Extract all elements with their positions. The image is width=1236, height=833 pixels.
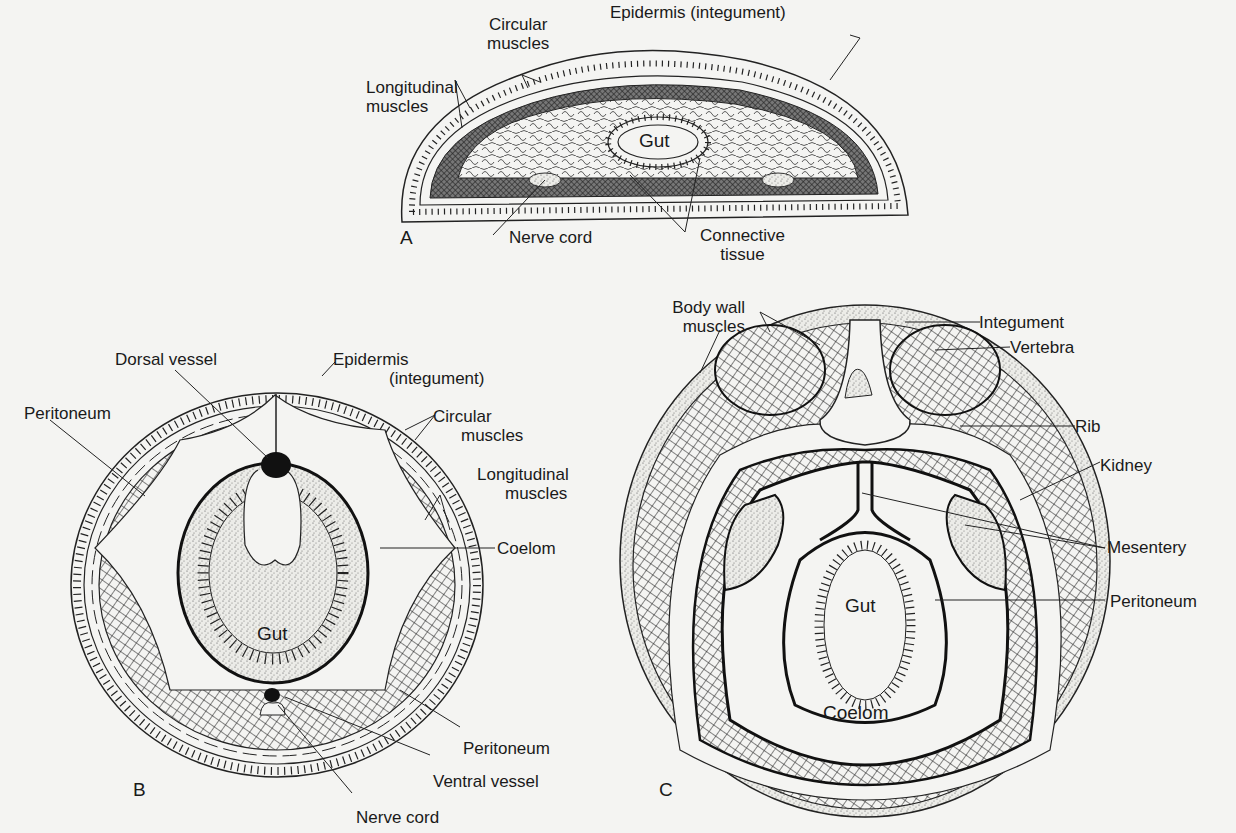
label-a-epidermis: Epidermis (integument)	[610, 3, 786, 22]
label-b-peritoneum-bottom: Peritoneum	[463, 739, 550, 758]
label-b-coelom: Coelom	[497, 539, 556, 558]
label-c-mesentery: Mesentery	[1107, 538, 1186, 557]
label-c-integument: Integument	[979, 313, 1064, 332]
label-c-vertebra: Vertebra	[1010, 338, 1074, 357]
label-b-longitudinal-muscles: Longitudinal muscles	[477, 465, 569, 503]
label-c-rib: Rib	[1075, 417, 1101, 436]
label-c-coelom: Coelom	[823, 703, 888, 722]
panel-label-b: B	[133, 780, 146, 799]
panel-b-drawing	[50, 362, 495, 793]
label-b-nerve-cord: Nerve cord	[356, 808, 439, 827]
label-b-ventral-vessel: Ventral vessel	[433, 772, 539, 791]
label-b-circular-muscles: Circular muscles	[433, 407, 523, 445]
label-b-epidermis: Epidermis (integument)	[333, 350, 484, 388]
label-c-gut: Gut	[845, 596, 876, 615]
diagram-canvas	[0, 0, 1236, 833]
label-a-nerve-cord: Nerve cord	[509, 228, 592, 247]
label-a-longitudinal-muscles: Longitudinal muscles	[366, 78, 458, 116]
label-c-body-wall-muscles: Body wall muscles	[645, 298, 745, 336]
label-a-connective-tissue: Connective tissue	[700, 226, 785, 264]
label-b-dorsal-vessel: Dorsal vessel	[115, 350, 217, 369]
label-a-circular-muscles: Circular muscles	[487, 15, 549, 53]
label-a-gut: Gut	[639, 131, 670, 150]
label-c-peritoneum: Peritoneum	[1110, 592, 1197, 611]
panel-label-a: A	[400, 228, 413, 247]
panel-c-drawing	[620, 305, 1110, 817]
panel-label-c: C	[659, 780, 673, 799]
label-b-peritoneum-top: Peritoneum	[24, 404, 111, 423]
label-c-kidney: Kidney	[1100, 456, 1152, 475]
label-b-gut: Gut	[257, 624, 288, 643]
